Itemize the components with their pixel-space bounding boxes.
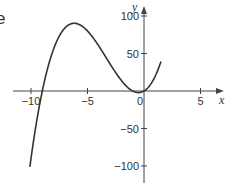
x-tick-label: −5 xyxy=(81,95,94,107)
y-tick-label: −100 xyxy=(114,160,139,172)
y-axis-arrow-icon xyxy=(141,6,147,14)
x-axis-label: x xyxy=(218,93,225,107)
x-tick-label: 0 xyxy=(137,95,143,107)
y-tick-label: 50 xyxy=(127,48,139,60)
y-axis-label: y xyxy=(131,0,138,14)
x-axis xyxy=(13,88,224,94)
chart: −10−505 10050−50−100 x y xyxy=(0,0,228,183)
x-tick-label: 5 xyxy=(197,95,203,107)
x-tick-label: −10 xyxy=(22,95,41,107)
y-tick-label: −50 xyxy=(120,123,139,135)
